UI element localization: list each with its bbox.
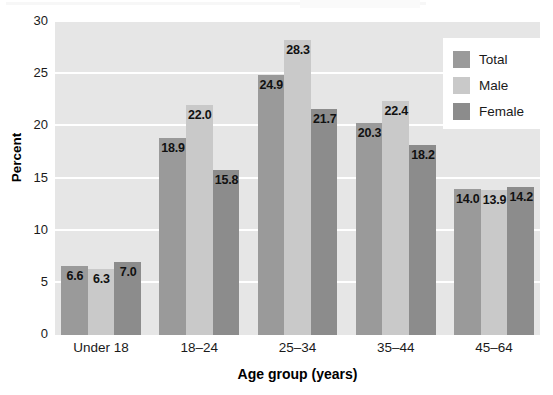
legend-label-female: Female	[479, 104, 524, 119]
bar-total-2	[258, 75, 285, 335]
bar-value-label-female-1: 15.8	[214, 173, 240, 187]
bar-female-2	[311, 109, 338, 335]
bar-value-label-male-4: 13.9	[482, 193, 508, 207]
bar-male-2	[284, 40, 311, 335]
y-tick-label-30: 30	[6, 13, 48, 28]
bar-total-3	[356, 123, 383, 335]
bar-value-label-male-0: 6.3	[89, 272, 115, 286]
bar-chart: 051015202530 Percent 6.66.37.018.922.015…	[0, 0, 553, 395]
bar-value-label-female-2: 21.7	[312, 112, 338, 126]
y-tick-label-0: 0	[6, 326, 48, 341]
bar-female-3	[409, 145, 436, 335]
bar-value-label-total-1: 18.9	[160, 141, 186, 155]
legend-swatch-total	[453, 51, 470, 68]
legend-item-male[interactable]: Male	[453, 73, 547, 97]
y-axis-ticks: 051015202530	[0, 22, 48, 335]
legend-item-total[interactable]: Total	[453, 47, 547, 71]
bar-value-label-total-2: 24.9	[259, 78, 285, 92]
bar-value-label-female-3: 18.2	[410, 148, 436, 162]
bar-total-4	[454, 189, 481, 335]
bar-value-label-male-1: 22.0	[187, 108, 213, 122]
x-axis-title: Age group (years)	[55, 366, 540, 382]
bar-value-label-female-0: 7.0	[115, 265, 141, 279]
legend-swatch-male	[453, 77, 470, 94]
bar-value-label-male-2: 28.3	[285, 43, 311, 57]
legend-label-total: Total	[479, 52, 508, 67]
bar-value-label-male-3: 22.4	[383, 104, 409, 118]
bar-total-1	[159, 138, 186, 335]
bar-value-label-female-4: 14.2	[508, 190, 534, 204]
legend-item-female[interactable]: Female	[453, 99, 547, 123]
legend-label-male: Male	[479, 78, 508, 93]
y-tick-label-25: 25	[6, 65, 48, 80]
x-tick-label-4: 45–64	[434, 340, 553, 355]
bar-value-label-total-4: 14.0	[455, 192, 481, 206]
bar-value-label-total-3: 20.3	[357, 126, 383, 140]
bar-male-3	[382, 101, 409, 335]
scan-artifact-secondary	[300, 0, 420, 8]
y-tick-label-10: 10	[6, 222, 48, 237]
y-axis-title: Percent	[9, 118, 24, 198]
bar-male-1	[186, 105, 213, 335]
bar-value-label-total-0: 6.6	[62, 269, 88, 283]
y-tick-label-5: 5	[6, 274, 48, 289]
chart-legend: TotalMaleFemale	[443, 38, 547, 129]
bar-male-4	[481, 190, 508, 335]
legend-swatch-female	[453, 103, 470, 120]
bar-female-4	[507, 187, 534, 335]
bar-female-1	[213, 170, 240, 335]
